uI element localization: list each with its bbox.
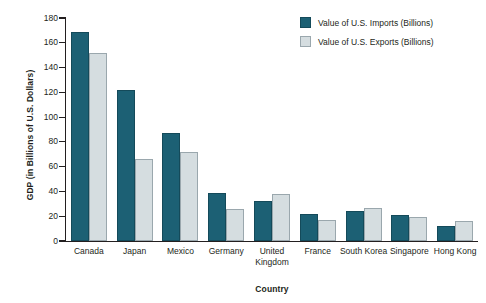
- bar-exports[interactable]: [409, 217, 427, 241]
- bar-imports[interactable]: [162, 133, 180, 241]
- y-axis-tick-label: 140: [20, 63, 58, 72]
- bar-exports[interactable]: [180, 152, 198, 241]
- y-axis-tick-mark: [59, 92, 66, 93]
- bar-imports[interactable]: [117, 90, 135, 241]
- legend-item[interactable]: Value of U.S. Exports (Billions): [300, 32, 434, 51]
- bar-exports[interactable]: [364, 208, 382, 241]
- bar-group: [71, 18, 107, 241]
- bar-imports[interactable]: [300, 214, 318, 241]
- y-axis-tick-mark: [59, 67, 66, 68]
- legend-item[interactable]: Value of U.S. Imports (Billions): [300, 13, 434, 32]
- bar-imports[interactable]: [346, 211, 364, 241]
- y-axis-tick-mark: [59, 216, 66, 217]
- y-axis-tick-label: 120: [20, 88, 58, 97]
- legend-label: Value of U.S. Imports (Billions): [318, 18, 433, 28]
- x-axis-tick-label: Hong Kong: [425, 246, 485, 257]
- bar-imports[interactable]: [208, 193, 226, 241]
- bar-group: [391, 18, 427, 241]
- y-axis-tick-mark: [59, 42, 66, 43]
- bar-group: [300, 18, 336, 241]
- bar-group: [254, 18, 290, 241]
- bar-group: [437, 18, 473, 241]
- y-axis-tick-mark: [59, 17, 66, 18]
- y-axis-tick-mark: [59, 141, 66, 142]
- y-axis-tick-mark: [59, 117, 66, 118]
- bar-group: [208, 18, 244, 241]
- legend-swatch-imports: [300, 17, 311, 28]
- y-axis-tick-mark: [59, 191, 66, 192]
- y-axis-tick-mark: [59, 240, 66, 241]
- bar-group: [117, 18, 153, 241]
- y-axis-tick-label: 80: [20, 137, 58, 146]
- legend-swatch-exports: [300, 36, 311, 47]
- chart-legend: Value of U.S. Imports (Billions)Value of…: [300, 13, 434, 51]
- bar-group: [162, 18, 198, 241]
- y-axis-tick-label: 60: [20, 162, 58, 171]
- bar-imports[interactable]: [254, 201, 272, 241]
- bar-exports[interactable]: [272, 194, 290, 241]
- x-axis-title: Country: [66, 284, 478, 294]
- bar-imports[interactable]: [391, 215, 409, 241]
- x-axis-tick-labels: CanadaJapanMexicoGermanyUnited KingdomFr…: [0, 246, 486, 282]
- bar-exports[interactable]: [89, 53, 107, 241]
- bar-exports[interactable]: [455, 221, 473, 241]
- bar-imports[interactable]: [437, 226, 455, 241]
- bar-exports[interactable]: [135, 159, 153, 241]
- y-axis-tick-label: 160: [20, 38, 58, 47]
- bar-group: [346, 18, 382, 241]
- y-axis-tick-label: 100: [20, 113, 58, 122]
- y-axis-tick-label: 40: [20, 187, 58, 196]
- y-axis-tick-label: 0: [20, 237, 58, 246]
- bar-imports[interactable]: [71, 32, 89, 241]
- y-axis-tick-label: 180: [20, 14, 58, 23]
- bar-exports[interactable]: [318, 220, 336, 241]
- bar-exports[interactable]: [226, 209, 244, 241]
- bar-chart: GDP (in Billions of U.S. Dollars) 020406…: [0, 0, 486, 303]
- y-axis-tick-mark: [59, 166, 66, 167]
- plot-area: [66, 18, 478, 241]
- y-axis-tick-label: 20: [20, 212, 58, 221]
- legend-label: Value of U.S. Exports (Billions): [318, 37, 434, 47]
